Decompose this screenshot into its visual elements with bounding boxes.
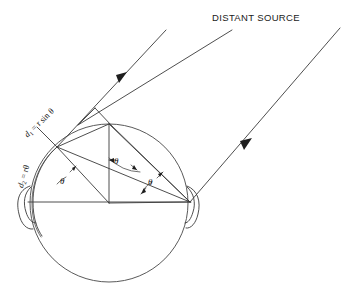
radius-to-left-contact xyxy=(57,147,109,203)
d1-leader-line xyxy=(37,127,57,147)
chord-left-contact-to-right-ear xyxy=(57,147,190,202)
head-diagram-svg xyxy=(0,0,364,296)
chord-apex-to-left-contact xyxy=(57,124,109,147)
apex-triangle-right-edge xyxy=(95,108,112,126)
theta-label-right: θ xyxy=(148,177,152,187)
theta-left-arrowhead-icon xyxy=(72,166,76,171)
incident-ray-1 xyxy=(57,30,166,147)
theta-label-left: θ xyxy=(60,176,64,186)
ray-3-arrowhead-icon xyxy=(240,138,252,150)
theta-center-arrowhead-right-icon xyxy=(132,165,137,170)
incident-ray-2-upper xyxy=(78,30,232,125)
incident-ray-3 xyxy=(190,28,340,202)
incident-ray-2-lower xyxy=(112,126,190,202)
theta-label-center: θ xyxy=(114,156,118,166)
figure-canvas: DISTANT SOURCE d1 = r sin θ d2 = rθ θ θ … xyxy=(0,0,364,296)
distant-source-label: DISTANT SOURCE xyxy=(212,12,300,23)
